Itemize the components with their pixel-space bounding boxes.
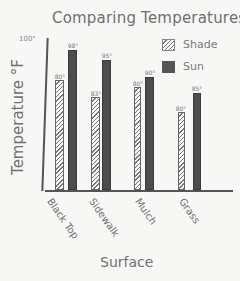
bar-grass-sun <box>193 93 201 190</box>
bar-grass-shade <box>178 112 185 190</box>
y-axis-tick-100: 100° <box>19 35 36 43</box>
bar-mulch-sun <box>145 77 154 190</box>
bar-blacktop-sun-label: 98° <box>64 42 82 49</box>
legend-sun: Sun <box>162 60 204 73</box>
x-category-blacktop: Black Top <box>45 196 81 241</box>
legend-solid-swatch-icon <box>162 61 175 73</box>
bar-blacktop-shade-label: 80° <box>51 73 69 80</box>
y-axis-label: Temperature °F <box>9 47 27 187</box>
bar-sidewalk-sun-label: 95° <box>98 52 116 59</box>
bar-sidewalk-shade <box>91 97 100 190</box>
x-category-grass: Grass <box>177 196 202 226</box>
legend-sun-label: Sun <box>183 60 204 73</box>
bar-blacktop-shade <box>55 80 64 190</box>
x-axis-line <box>45 190 233 192</box>
legend-shade-label: Shade <box>183 38 217 51</box>
bar-mulch-shade <box>134 87 141 190</box>
bar-mulch-sun-label: 90° <box>141 69 159 76</box>
bar-grass-sun-label: 85° <box>188 85 206 92</box>
chart-title: Comparing Temperatures <box>52 9 240 27</box>
bar-grass-shade-label: 80° <box>172 105 190 112</box>
x-axis-label: Surface <box>100 254 153 270</box>
y-axis-line <box>41 38 48 191</box>
x-category-sidewalk: Sidewalk <box>87 196 122 239</box>
bar-blacktop-sun <box>68 50 77 190</box>
bar-sidewalk-sun <box>102 60 111 190</box>
x-category-mulch: Mulch <box>133 196 159 227</box>
legend-hatch-swatch-icon <box>162 39 175 51</box>
legend-shade: Shade <box>162 38 217 51</box>
